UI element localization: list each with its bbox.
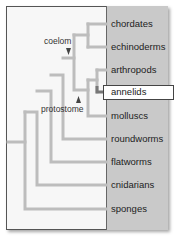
protostome-arrow-icon [76, 96, 81, 103]
branch-flatworms [37, 91, 106, 162]
branch-coelom-split [74, 35, 88, 90]
taxon-label: molluscs [111, 110, 148, 122]
taxon-label: cnidarians [111, 179, 154, 191]
phylogenetic-tree [0, 0, 179, 239]
taxon-label: chordates [111, 18, 153, 30]
taxon-label: flatworms [111, 156, 152, 168]
taxon-label: sponges [111, 203, 147, 215]
coelom-arrow-icon [66, 48, 71, 55]
taxon-label: roundworms [111, 133, 163, 145]
protostome-annotation: protostome [41, 104, 84, 114]
taxon-label-highlighted: annelids [111, 86, 146, 98]
branch-cnidarians [25, 112, 106, 185]
taxon-label: echinoderms [111, 41, 165, 53]
coelom-annotation: coelom [44, 36, 71, 46]
taxon-label: arthropods [111, 64, 156, 76]
